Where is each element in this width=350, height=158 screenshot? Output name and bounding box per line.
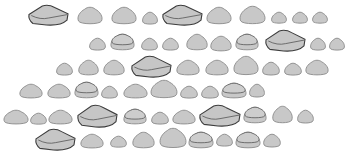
pebble-layered (236, 34, 258, 50)
pebble-round (78, 7, 102, 23)
pebble-round (143, 12, 158, 24)
pebble-round (207, 7, 231, 23)
pebble-round (104, 60, 124, 75)
pebble-round (330, 38, 345, 50)
pebble-slab (29, 5, 68, 25)
pebble-round (112, 7, 136, 23)
pebble-round (250, 84, 265, 97)
pebble-round (124, 84, 147, 98)
pebble-round (181, 86, 198, 98)
pebble-round (173, 110, 195, 124)
pebble-layered (244, 107, 266, 123)
pebble-round (20, 84, 42, 98)
pebble-round (311, 38, 326, 50)
pebble-round (285, 63, 302, 75)
pebble-round (263, 62, 280, 75)
pebble-slab (36, 129, 75, 150)
pebble-layered (124, 109, 146, 124)
pebble-layered (222, 83, 246, 98)
pebble-row (36, 128, 281, 150)
pebble-round (240, 6, 265, 23)
pebble-round (160, 128, 186, 147)
pebble-round (202, 86, 219, 98)
pebble-round (151, 80, 177, 97)
pebble-round (57, 63, 73, 75)
pebble-round (298, 110, 314, 123)
pebble-round (264, 134, 281, 147)
pebble-round (48, 84, 70, 98)
pebble-round (102, 86, 118, 98)
pebble-round (187, 34, 207, 50)
pebble-round (306, 60, 328, 75)
pebble-round (163, 38, 179, 50)
pebble-round (217, 134, 233, 146)
pebble-round (234, 56, 258, 74)
pebble-row (4, 105, 313, 127)
pebbles-illustration (0, 0, 350, 158)
pebble-layered (111, 34, 134, 50)
pebble-row (20, 80, 265, 98)
pebble-round (81, 134, 103, 148)
pebble-round (133, 132, 154, 148)
pebble-round (293, 12, 308, 23)
pebble-round (142, 38, 158, 50)
pebble-round (313, 12, 328, 23)
pebble-round (273, 106, 292, 122)
pebble-round (152, 112, 169, 124)
pebble-layered (75, 82, 98, 98)
pebble-slab (132, 56, 171, 77)
pebble-slab (78, 105, 117, 127)
pebble-round (177, 60, 199, 75)
pebble-layered (236, 132, 260, 148)
pebble-round (79, 60, 98, 75)
pebble-row (90, 30, 345, 51)
pebble-slab (266, 30, 305, 51)
pebble-slab (200, 105, 240, 126)
pebble-round (206, 60, 228, 75)
pebble-layered (189, 132, 213, 148)
pebble-round (211, 36, 231, 51)
pebble-round (111, 136, 127, 147)
pebble-round (31, 113, 47, 124)
pebble-slab (163, 5, 202, 25)
pebble-row (29, 5, 328, 25)
pebble-round (49, 110, 72, 124)
pebble-round (90, 38, 106, 50)
pebble-row (57, 56, 328, 77)
pebble-round (4, 110, 28, 124)
pebble-round (272, 12, 287, 23)
